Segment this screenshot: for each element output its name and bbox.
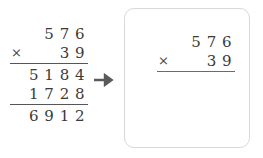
right-arrow-icon: leads to xyxy=(92,72,116,88)
multiplicand-row: 5 7 6 xyxy=(10,24,88,43)
panel-multiplication-sign-icon: × xyxy=(157,53,174,68)
partial-product-2-digits: 1 7 2 8 xyxy=(27,85,88,103)
partial-product-1-digits: 5 1 8 4 xyxy=(27,66,88,84)
panel-answer-area[interactable] xyxy=(157,73,235,139)
sum-row: 6 9 1 2 xyxy=(10,106,88,125)
panel-multiplication-rule-line xyxy=(157,71,235,72)
partial-product-row-2: 1 7 2 8 xyxy=(10,84,88,103)
sum-digits: 6 9 1 2 xyxy=(27,107,88,125)
panel-multiplier-row: × 3 9 xyxy=(157,51,235,70)
partial-product-row-1: 5 1 8 4 xyxy=(10,65,88,84)
multiplicand-digits: 5 7 6 xyxy=(27,25,88,43)
worksheet-canvas: 5 7 6 × 3 9 5 1 8 4 1 7 2 8 6 9 1 2 lead… xyxy=(0,0,263,158)
multiplier-row: × 3 9 xyxy=(10,43,88,62)
sum-rule-line xyxy=(10,104,88,105)
multiplication-rule-line xyxy=(10,63,88,64)
multiplier-digits: 3 9 xyxy=(27,44,88,62)
panel-multiplicand-row: 5 7 6 xyxy=(157,32,235,51)
worked-multiplication-example: 5 7 6 × 3 9 5 1 8 4 1 7 2 8 6 9 1 2 xyxy=(10,24,88,125)
panel-multiplication-problem: 5 7 6 × 3 9 xyxy=(157,32,235,139)
panel-multiplicand-digits: 5 7 6 xyxy=(174,33,235,51)
blank-problem-panel: 5 7 6 × 3 9 xyxy=(124,8,250,148)
multiplication-sign-icon: × xyxy=(10,45,27,60)
panel-multiplier-digits: 3 9 xyxy=(174,52,235,70)
